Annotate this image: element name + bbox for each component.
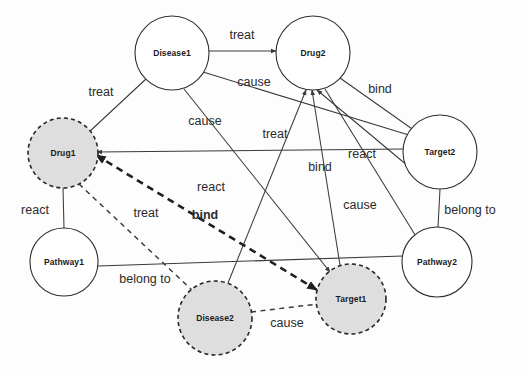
edge-label-e5: cause bbox=[188, 114, 221, 128]
edge-target2-pathway2[interactable] bbox=[438, 189, 440, 227]
edge-label-e9: react bbox=[197, 180, 225, 194]
node-pathway2[interactable]: Pathway2 bbox=[402, 227, 472, 297]
node-label-pathway2: Pathway2 bbox=[417, 257, 457, 267]
knowledge-graph-svg: Disease1Drug2Drug1Target2Pathway1Pathway… bbox=[0, 0, 529, 377]
edge-label-e16: cause bbox=[270, 316, 303, 330]
edge-drug2-pathway2[interactable] bbox=[325, 89, 417, 238]
node-label-drug2: Drug2 bbox=[300, 48, 325, 58]
node-disease1[interactable]: Disease1 bbox=[135, 16, 209, 90]
edge-label-e3: cause bbox=[237, 75, 270, 89]
node-target2[interactable]: Target2 bbox=[403, 115, 477, 189]
edge-target1-drug2[interactable] bbox=[312, 90, 340, 265]
edge-drug1-pathway1[interactable] bbox=[63, 188, 64, 228]
edge-pathway1-pathway2[interactable] bbox=[98, 256, 403, 266]
edge-label-e7: bind bbox=[308, 160, 332, 174]
edge-label-e6: treat bbox=[262, 127, 288, 141]
nodes-layer: Disease1Drug2Drug1Target2Pathway1Pathway… bbox=[28, 16, 477, 355]
node-label-target1: Target1 bbox=[336, 294, 367, 304]
node-disease2[interactable]: Disease2 bbox=[178, 281, 252, 355]
node-pathway1[interactable]: Pathway1 bbox=[30, 228, 98, 296]
edge-disease2-drug2[interactable] bbox=[228, 90, 306, 283]
node-label-disease1: Disease1 bbox=[153, 48, 191, 58]
knowledge-graph-canvas: Disease1Drug2Drug1Target2Pathway1Pathway… bbox=[0, 0, 529, 377]
edge-drug1-target1[interactable] bbox=[96, 155, 317, 290]
node-label-drug1: Drug1 bbox=[50, 148, 75, 158]
node-drug2[interactable]: Drug2 bbox=[276, 16, 350, 90]
edge-label-e4: bind bbox=[368, 82, 392, 96]
edge-label-e14: bind bbox=[192, 208, 218, 222]
edge-label-e11: belong to bbox=[444, 203, 495, 217]
node-label-target2: Target2 bbox=[425, 147, 456, 157]
node-label-pathway1: Pathway1 bbox=[44, 257, 84, 267]
edge-label-e2: treat bbox=[88, 85, 114, 99]
edge-label-e1: treat bbox=[229, 28, 255, 42]
edge-label-e15: treat bbox=[133, 206, 159, 220]
node-drug1[interactable]: Drug1 bbox=[28, 118, 98, 188]
node-label-disease2: Disease2 bbox=[196, 313, 234, 323]
edge-disease2-target1[interactable] bbox=[251, 304, 318, 312]
edge-label-e12: react bbox=[21, 203, 49, 217]
edge-label-e10: cause bbox=[343, 198, 376, 212]
node-target1[interactable]: Target1 bbox=[316, 264, 386, 334]
edge-label-e13: belong to bbox=[119, 272, 170, 286]
edge-label-e8: react bbox=[348, 147, 376, 161]
